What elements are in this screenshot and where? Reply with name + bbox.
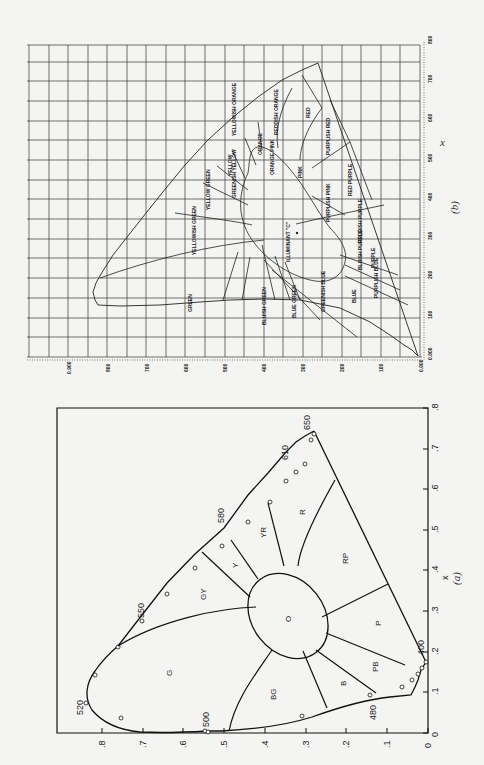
svg-text:.2: .2 xyxy=(341,740,351,748)
svg-text:400: 400 xyxy=(416,640,426,655)
svg-text:.1: .1 xyxy=(382,740,392,748)
svg-text:R: R xyxy=(298,509,307,515)
caption-a: (a) xyxy=(450,572,463,585)
svg-text:RP: RP xyxy=(341,553,350,564)
svg-text:610: 610 xyxy=(280,445,290,460)
svg-text:.7: .7 xyxy=(430,444,440,452)
svg-text:PB: PB xyxy=(371,661,380,672)
svg-text:.6: .6 xyxy=(430,484,440,492)
svg-text:650: 650 xyxy=(302,415,312,430)
svg-text:Y: Y xyxy=(231,562,240,568)
svg-text:.7: .7 xyxy=(138,740,148,748)
svg-text:O: O xyxy=(284,616,293,622)
svg-text:.5: .5 xyxy=(430,525,440,533)
svg-text:B: B xyxy=(339,681,348,686)
panel-a-background xyxy=(0,380,484,765)
svg-text:500: 500 xyxy=(201,712,211,727)
svg-text:YR: YR xyxy=(259,527,268,538)
svg-text:.4: .4 xyxy=(430,565,440,573)
svg-text:0: 0 xyxy=(430,732,440,737)
x-axis-label-a: x xyxy=(440,575,450,580)
svg-text:.8: .8 xyxy=(97,740,107,748)
svg-text:580: 580 xyxy=(216,508,226,523)
svg-text:0: 0 xyxy=(423,743,433,748)
svg-text:.2: .2 xyxy=(430,647,440,655)
svg-text:.3: .3 xyxy=(430,606,440,614)
svg-text:.8: .8 xyxy=(430,403,440,411)
svg-text:.1: .1 xyxy=(430,687,440,695)
svg-text:.5: .5 xyxy=(219,740,229,748)
svg-text:480: 480 xyxy=(368,705,378,720)
svg-text:.6: .6 xyxy=(178,740,188,748)
svg-text:.3: .3 xyxy=(301,740,311,748)
svg-text:GY: GY xyxy=(199,588,208,600)
svg-text:G: G xyxy=(165,670,174,676)
svg-text:520: 520 xyxy=(75,700,85,715)
svg-text:P: P xyxy=(374,621,383,626)
svg-text:.4: .4 xyxy=(260,740,270,748)
panel-a-overlay: G GY Y YR R RP P PB B BG O 480 500 520 5… xyxy=(0,0,484,765)
svg-text:550: 550 xyxy=(136,603,146,618)
svg-text:BG: BG xyxy=(269,688,278,700)
